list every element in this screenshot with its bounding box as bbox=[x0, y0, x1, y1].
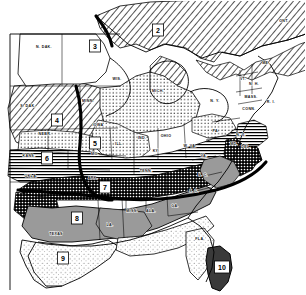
zone-number: 4 bbox=[55, 117, 59, 124]
zone-marker-3[interactable]: 3 bbox=[90, 40, 101, 52]
state-label: N. C. bbox=[198, 173, 208, 177]
state-label: MO. bbox=[91, 152, 99, 156]
state-label: S. DAK. bbox=[20, 104, 36, 108]
state-label: TEXAS bbox=[49, 232, 63, 236]
state-label: R. I. bbox=[267, 100, 275, 104]
state-label: FLA. bbox=[195, 237, 204, 241]
state-label: IND. bbox=[138, 136, 147, 140]
state-label: ARK. bbox=[88, 176, 98, 180]
state-label: DEL. bbox=[241, 145, 251, 149]
state-label: PA. bbox=[213, 129, 220, 133]
state-label: OKLA. bbox=[25, 174, 38, 178]
zone-number: 7 bbox=[103, 184, 107, 191]
zone-marker-10[interactable]: 10 bbox=[215, 261, 230, 273]
state-label: N. Y. bbox=[210, 99, 219, 103]
state-label: ALA. bbox=[146, 209, 156, 213]
state-label: MD. bbox=[230, 142, 238, 146]
state-label: VA. bbox=[201, 154, 208, 158]
state-label: ILL. bbox=[115, 142, 123, 146]
state-label: MICH. bbox=[152, 89, 164, 93]
map-container: N. DAK.S. DAK.NEBR.MINN.IOWAWIS.MICH.KAN… bbox=[0, 0, 306, 295]
state-label: OHIO bbox=[161, 134, 172, 138]
zone-number: 8 bbox=[75, 215, 79, 222]
zone-map: N. DAK.S. DAK.NEBR.MINN.IOWAWIS.MICH.KAN… bbox=[0, 0, 306, 295]
state-label: NEBR. bbox=[39, 132, 52, 136]
state-label: N. DAK. bbox=[36, 45, 52, 49]
state-label: KY. bbox=[153, 149, 160, 153]
state-label: MISS. bbox=[126, 209, 138, 213]
zone-marker-2[interactable]: 2 bbox=[153, 24, 164, 36]
zone-marker-9[interactable]: 9 bbox=[58, 252, 69, 264]
state-label: ONT. bbox=[279, 19, 289, 23]
state-label: ME. bbox=[262, 61, 269, 65]
state-label: MASS. bbox=[244, 95, 257, 99]
state-label: WIS. bbox=[112, 77, 121, 81]
state-label: CONN. bbox=[242, 107, 255, 111]
zone-marker-6[interactable]: 6 bbox=[42, 152, 53, 164]
state-label: S. C. bbox=[189, 189, 199, 193]
state-label: MINN. bbox=[82, 99, 94, 103]
state-label: N. H. bbox=[249, 82, 259, 86]
state-label: W. VA. bbox=[183, 144, 196, 148]
zone-marker-7[interactable]: 7 bbox=[100, 181, 111, 193]
state-label: GA. bbox=[171, 204, 178, 208]
state-label: TENN. bbox=[140, 169, 153, 173]
zone-number: 6 bbox=[45, 155, 49, 162]
zone-number: 2 bbox=[156, 27, 160, 34]
state-label: N. J. bbox=[236, 133, 245, 137]
zone-number: 9 bbox=[61, 255, 65, 262]
state-label: LA. bbox=[107, 223, 114, 227]
zone-number: 3 bbox=[93, 43, 97, 50]
zone-marker-4[interactable]: 4 bbox=[52, 114, 63, 126]
state-label: VT. bbox=[240, 77, 246, 81]
state-label: IOWA bbox=[93, 123, 104, 127]
zone-number: 10 bbox=[218, 264, 226, 271]
zone-marker-5[interactable]: 5 bbox=[90, 137, 101, 149]
zone-marker-8[interactable]: 8 bbox=[72, 212, 83, 224]
state-label: KANS. bbox=[23, 154, 36, 158]
zone-number: 5 bbox=[93, 140, 97, 147]
